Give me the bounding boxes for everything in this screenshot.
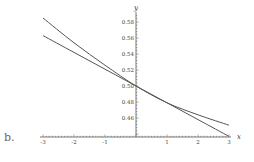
- y-tick-label: 0.54: [122, 51, 135, 57]
- panel-label: b.: [4, 131, 15, 144]
- x-tick-label: -3: [40, 139, 46, 145]
- y-tick-label: 0.56: [122, 35, 135, 41]
- axes: [40, 12, 231, 137]
- y-tick-label: 0.52: [122, 67, 134, 73]
- y-tick-label: 0.48: [122, 99, 135, 105]
- x-tick-label: -2: [71, 139, 76, 145]
- y-axis-label: y: [133, 4, 139, 12]
- x-axis-label: x: [237, 133, 241, 141]
- x-tick-label: 1: [165, 139, 169, 145]
- y-tick-label: 0.50: [122, 83, 135, 89]
- y-tick-label: 0.46: [122, 115, 135, 121]
- chart: -3-2-11230.460.480.500.520.540.560.58 b.…: [0, 0, 254, 162]
- x-tick-label: -1: [102, 139, 107, 145]
- y-tick-label: 0.58: [122, 19, 135, 25]
- x-tick-label: 2: [196, 139, 200, 145]
- x-tick-label: 3: [227, 139, 231, 145]
